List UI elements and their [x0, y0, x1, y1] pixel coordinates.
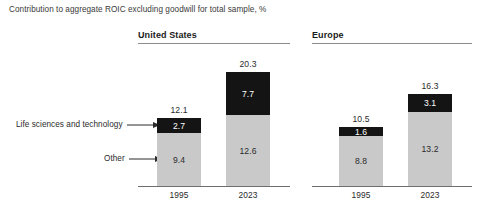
bar-segment-value: 13.2 — [408, 145, 452, 154]
bar-category-label: 2023 — [216, 190, 280, 200]
bar-segment-value: 12.6 — [226, 146, 270, 155]
axis-baseline — [138, 186, 290, 187]
bar-category-label: 2023 — [398, 190, 462, 200]
chart-title: Contribution to aggregate ROIC excluding… — [9, 5, 266, 15]
bar-group[interactable]: 10.5 1.6 8.8 1995 — [339, 127, 383, 186]
bar-segment-value: 8.8 — [339, 157, 383, 166]
bar-segment-life-sciences[interactable]: 2.7 — [157, 118, 201, 133]
plot-area-europe: 10.5 1.6 8.8 1995 16.3 3.1 13.2 2023 — [312, 44, 472, 201]
bar-segment-life-sciences[interactable]: 7.7 — [226, 72, 270, 115]
bar-segment-life-sciences[interactable]: 3.1 — [408, 94, 452, 112]
axis-baseline — [312, 186, 472, 187]
panel-title-europe: Europe — [312, 30, 472, 43]
panel-title-united-states: United States — [138, 30, 290, 43]
annotation-label-other: Other — [104, 154, 125, 164]
annotation-label-life-sciences: Life sciences and technology — [16, 120, 123, 130]
bar-segment-other[interactable]: 8.8 — [339, 136, 383, 186]
plot-area-united-states: 12.1 2.7 9.4 1995 20.3 7.7 12.6 2023 — [138, 44, 290, 201]
bar-group[interactable]: 20.3 7.7 12.6 2023 — [226, 72, 270, 186]
bar-segment-value: 3.1 — [408, 99, 452, 108]
bar-segment-life-sciences[interactable]: 1.6 — [339, 127, 383, 136]
bar-segment-other[interactable]: 9.4 — [157, 133, 201, 186]
bar-segment-value: 9.4 — [157, 155, 201, 164]
bar-segment-other[interactable]: 13.2 — [408, 112, 452, 186]
bar-segment-other[interactable]: 12.6 — [226, 115, 270, 186]
bar-group[interactable]: 16.3 3.1 13.2 2023 — [408, 94, 452, 186]
bar-total-label: 16.3 — [400, 81, 460, 91]
bar-segment-value: 7.7 — [226, 89, 270, 98]
bar-group[interactable]: 12.1 2.7 9.4 1995 — [157, 118, 201, 186]
panel-europe: Europe 10.5 1.6 8.8 1995 16.3 3.1 13.2 2… — [312, 30, 472, 201]
bar-total-label: 12.1 — [149, 105, 209, 115]
bar-segment-value: 1.6 — [339, 127, 383, 136]
panel-united-states: United States 12.1 2.7 9.4 1995 20.3 7.7… — [138, 30, 290, 201]
bar-total-label: 20.3 — [218, 59, 278, 69]
bar-category-label: 1995 — [329, 190, 393, 200]
bar-category-label: 1995 — [147, 190, 211, 200]
bar-total-label: 10.5 — [331, 114, 391, 124]
bar-segment-value: 2.7 — [157, 121, 201, 130]
